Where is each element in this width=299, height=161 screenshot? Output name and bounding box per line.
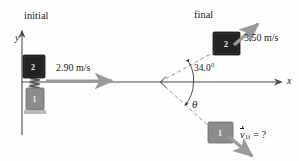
dashed-line-lower xyxy=(160,82,212,129)
axis-x-label: x xyxy=(287,76,291,86)
theta-label: θ xyxy=(192,99,197,110)
final-speed-label: 3.50 m/s xyxy=(244,33,278,43)
block-1-initial-label: 1 xyxy=(33,95,37,104)
physics-diagram: initial final y x 2.90 m/s 3.50 m/s 34.0… xyxy=(0,0,299,161)
label-final: final xyxy=(194,10,213,21)
unknown-velocity-label: v1f = ? xyxy=(240,130,266,141)
angle-34-label: 34.0° xyxy=(194,64,214,74)
block-2-initial-label: 2 xyxy=(31,63,35,72)
velocity-symbol: v xyxy=(240,130,245,141)
velocity-equals: = ? xyxy=(250,129,266,140)
label-initial: initial xyxy=(24,11,49,22)
block-1-final-label: 1 xyxy=(218,129,222,138)
axis-y-label: y xyxy=(15,33,19,43)
initial-speed-label: 2.90 m/s xyxy=(56,63,90,73)
block-2-final-label: 2 xyxy=(224,40,228,49)
